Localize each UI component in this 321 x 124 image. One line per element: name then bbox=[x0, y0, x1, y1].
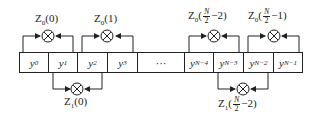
cell-y2: y2 bbox=[77, 52, 108, 73]
cell-ellipsis: ··· bbox=[137, 52, 185, 73]
label-z0-n2-minus-1: Z0(N2−1) bbox=[248, 8, 287, 25]
label-z0-1: Z0(1) bbox=[94, 12, 117, 27]
cell-yN-4: yN−4 bbox=[184, 52, 214, 73]
label-z1-n2-minus-2: Z1(N2−2) bbox=[218, 96, 257, 113]
cell-y3: y3 bbox=[107, 52, 138, 73]
label-z0-0: Z0(0) bbox=[35, 12, 58, 27]
cell-yN-1: yN−1 bbox=[273, 52, 303, 73]
cell-y0: y0 bbox=[19, 52, 49, 73]
cell-yN-3: yN−3 bbox=[213, 52, 244, 73]
cell-yN-2: yN−2 bbox=[243, 52, 274, 73]
label-z0-n2-minus-2: Z0(N2−2) bbox=[188, 8, 227, 25]
cell-y1: y1 bbox=[48, 52, 78, 73]
label-z1-0: Z1(0) bbox=[64, 95, 87, 110]
